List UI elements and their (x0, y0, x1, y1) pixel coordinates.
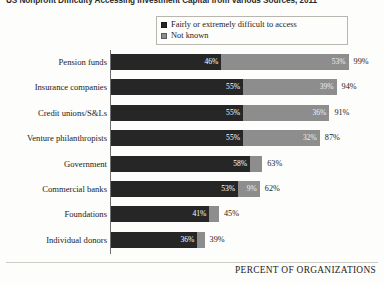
chart-title: US Nonprofit Difficulty Accessing Invest… (6, 0, 380, 5)
bar-segment-value: 58% (233, 156, 247, 172)
bar-segment-not-known: 36% (243, 105, 329, 121)
bar-segment-value: 32% (303, 130, 317, 146)
bar-total-label: 99% (354, 54, 369, 70)
bar-total-label: 94% (342, 79, 357, 95)
legend-label-not-known: Not known (171, 30, 208, 41)
x-axis-title: PERCENT OF ORGANIZATIONS (235, 265, 376, 275)
bar-total-label: 62% (265, 181, 280, 197)
bar-segment-difficult: 55% (111, 105, 243, 121)
bar-segment-difficult: 41% (111, 206, 209, 222)
bar-segment-value: 55% (226, 130, 240, 146)
bar-segment-not-known: 4% (209, 206, 219, 222)
bar-segment-value: 41% (192, 206, 206, 222)
bar-segment-value: 39% (320, 79, 334, 95)
plot-area: Pension funds46%53%99%Insurance companie… (110, 50, 358, 254)
bar-segment-difficult: 55% (111, 79, 243, 95)
bar-segment-difficult: 53% (111, 181, 238, 197)
bar-segment-value: 55% (226, 79, 240, 95)
legend-swatch-icon (161, 33, 167, 39)
bar-row: Government58%5%63% (111, 156, 358, 172)
bar-segment-value: 53% (332, 54, 346, 70)
bar-segment-not-known: 3% (197, 232, 204, 248)
legend-item-difficult: Fairly or extremely difficult to access (161, 19, 343, 30)
bar-row: Commercial banks53%9%62% (111, 181, 358, 197)
bar-total-label: 91% (334, 105, 349, 121)
bar-segment-difficult: 55% (111, 130, 243, 146)
category-label: Credit unions/S&Ls (0, 105, 107, 121)
category-label: Venture philanthropists (0, 130, 107, 146)
bar-row: Individual donors36%3%39% (111, 232, 358, 248)
bar-segment-value: 36% (180, 232, 194, 248)
bar-segment-difficult: 46% (111, 54, 221, 70)
legend-swatch-icon (161, 22, 167, 28)
bar-segment-value: 36% (312, 105, 326, 121)
bar-segment-value: 46% (204, 54, 218, 70)
bar-total-label: 45% (224, 206, 239, 222)
bar-segment-not-known: 53% (221, 54, 348, 70)
category-label: Commercial banks (0, 181, 107, 197)
bar-segment-not-known: 5% (250, 156, 262, 172)
chart-container: US Nonprofit Difficulty Accessing Invest… (0, 0, 384, 285)
category-label: Pension funds (0, 54, 107, 70)
bar-segment-not-known: 39% (243, 79, 337, 95)
bar-segment-difficult: 58% (111, 156, 250, 172)
bar-total-label: 39% (210, 232, 225, 248)
category-label: Insurance companies (0, 79, 107, 95)
bar-total-label: 87% (325, 130, 340, 146)
bar-row: Credit unions/S&Ls55%36%91% (111, 105, 358, 121)
footer-divider (6, 262, 378, 263)
bar-row: Foundations41%4%45% (111, 206, 358, 222)
category-label: Individual donors (0, 232, 107, 248)
bar-row: Venture philanthropists55%32%87% (111, 130, 358, 146)
category-label: Foundations (0, 206, 107, 222)
legend-label-difficult: Fairly or extremely difficult to access (171, 19, 297, 30)
bar-segment-not-known: 9% (238, 181, 260, 197)
chart-legend: Fairly or extremely difficult to access … (156, 16, 348, 45)
bar-segment-difficult: 36% (111, 232, 197, 248)
bar-segment-not-known: 32% (243, 130, 320, 146)
bar-row: Pension funds46%53%99% (111, 54, 358, 70)
category-label: Government (0, 156, 107, 172)
bar-segment-value: 9% (247, 181, 257, 197)
bar-segment-value: 53% (221, 181, 235, 197)
bar-total-label: 63% (267, 156, 282, 172)
bar-row: Insurance companies55%39%94% (111, 79, 358, 95)
bar-segment-value: 55% (226, 105, 240, 121)
legend-item-not-known: Not known (161, 30, 343, 41)
